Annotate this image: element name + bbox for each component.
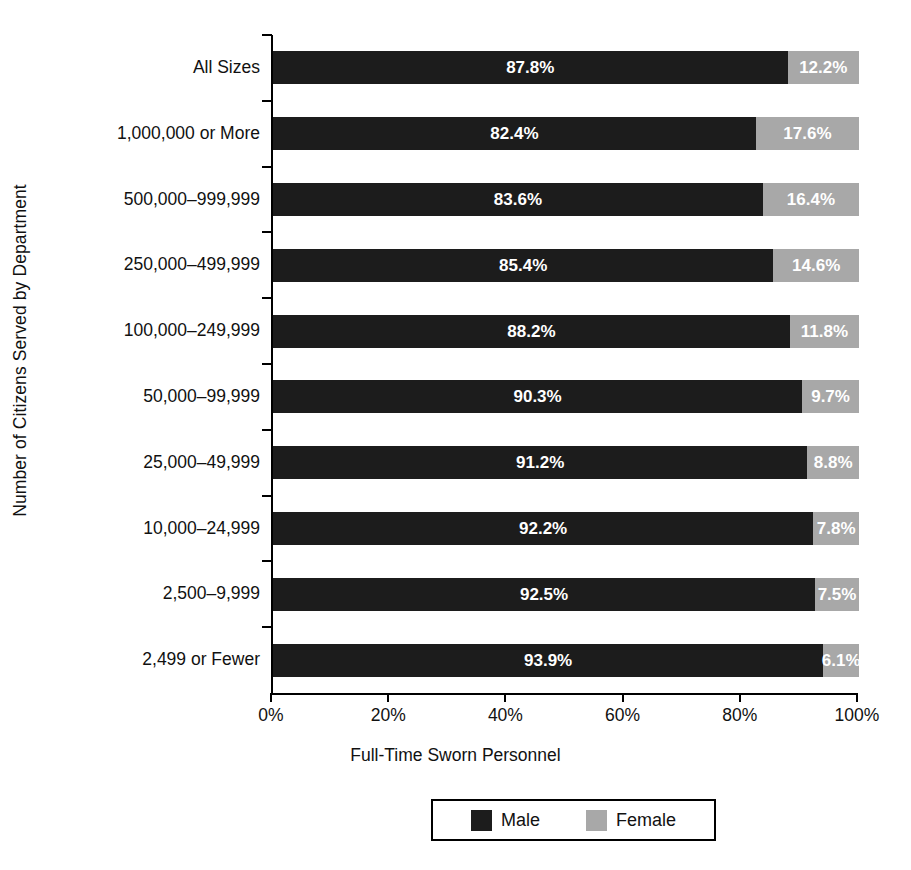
bar-segment-female: 17.6% [756, 117, 859, 150]
y-axis-title: Number of Citizens Served by Department [0, 0, 40, 700]
bar-row: 92.5%7.5% [273, 578, 859, 611]
bar-row: 83.6%16.4% [273, 183, 859, 216]
bar-segment-female: 8.8% [807, 446, 859, 479]
y-axis-tick [262, 34, 272, 36]
y-axis-tick [262, 363, 272, 365]
bar-row: 85.4%14.6% [273, 249, 859, 282]
legend-label-male: Male [501, 810, 540, 831]
stacked-bar-chart: Number of Citizens Served by Department … [0, 0, 911, 870]
bar-value-label-male: 82.4% [490, 125, 538, 142]
y-axis-tick [262, 560, 272, 562]
x-axis-tick-label: 0% [258, 705, 283, 726]
y-axis-category-label: 250,000–499,999 [124, 254, 260, 275]
x-axis-tick [270, 693, 272, 702]
y-axis-category-label: 25,000–49,999 [143, 452, 260, 473]
bar-value-label-male: 83.6% [494, 191, 542, 208]
bar-value-label-female: 8.8% [814, 454, 853, 471]
bar-row: 82.4%17.6% [273, 117, 859, 150]
x-axis-tick-label: 80% [722, 705, 757, 726]
legend-item-female: Female [586, 810, 676, 831]
y-axis-category-label: 1,000,000 or More [117, 123, 260, 144]
bar-row: 88.2%11.8% [273, 315, 859, 348]
bar-value-label-female: 7.5% [818, 586, 857, 603]
bar-segment-female: 14.6% [773, 249, 859, 282]
bar-value-label-female: 16.4% [787, 191, 835, 208]
y-axis-tick [262, 100, 272, 102]
y-axis-category-label: 50,000–99,999 [143, 386, 260, 407]
bar-segment-female: 7.5% [815, 578, 859, 611]
bar-value-label-male: 85.4% [499, 257, 547, 274]
y-axis-category-label: 2,499 or Fewer [142, 649, 260, 670]
chart-legend: Male Female [431, 799, 716, 841]
x-axis-tick-label: 20% [371, 705, 406, 726]
bar-segment-female: 16.4% [763, 183, 859, 216]
legend-item-male: Male [471, 810, 540, 831]
bar-segment-male: 92.5% [273, 578, 815, 611]
y-axis-category-label: 2,500–9,999 [163, 583, 260, 604]
bar-segment-female: 9.7% [802, 380, 859, 413]
bar-value-label-female: 12.2% [799, 59, 847, 76]
bar-segment-male: 87.8% [273, 51, 788, 84]
bar-segment-male: 83.6% [273, 183, 763, 216]
bar-segment-male: 92.2% [273, 512, 813, 545]
y-axis-category-label: 100,000–249,999 [124, 320, 260, 341]
bar-value-label-female: 11.8% [801, 323, 848, 340]
bar-segment-female: 6.1% [823, 644, 859, 677]
x-axis-tick-label: 60% [605, 705, 640, 726]
bar-segment-male: 93.9% [273, 644, 823, 677]
bar-value-label-male: 92.5% [520, 586, 568, 603]
bar-row: 87.8%12.2% [273, 51, 859, 84]
x-axis-tick [387, 693, 389, 702]
bar-segment-male: 82.4% [273, 117, 756, 150]
x-axis-tick [739, 693, 741, 702]
bar-value-label-female: 9.7% [811, 388, 850, 405]
x-axis-tick [622, 693, 624, 702]
bar-row: 90.3%9.7% [273, 380, 859, 413]
bar-value-label-female: 14.6% [792, 257, 840, 274]
bar-segment-female: 12.2% [788, 51, 859, 84]
bar-segment-female: 11.8% [790, 315, 859, 348]
x-axis-tick-label: 40% [488, 705, 523, 726]
y-axis-tick [262, 297, 272, 299]
x-axis-tick [856, 693, 858, 702]
bar-row: 92.2%7.8% [273, 512, 859, 545]
bar-row: 93.9%6.1% [273, 644, 859, 677]
bar-value-label-male: 91.2% [516, 454, 564, 471]
y-axis-tick [262, 166, 272, 168]
bar-value-label-male: 93.9% [524, 652, 572, 669]
legend-label-female: Female [616, 810, 676, 831]
y-axis-category-label: All Sizes [193, 57, 260, 78]
x-axis-tick [504, 693, 506, 702]
bar-value-label-male: 90.3% [513, 388, 561, 405]
x-axis-line [271, 693, 858, 695]
bar-segment-female: 7.8% [813, 512, 859, 545]
bar-segment-male: 85.4% [273, 249, 773, 282]
bar-segment-male: 91.2% [273, 446, 807, 479]
legend-swatch-female-icon [586, 810, 607, 831]
y-axis-title-text: Number of Citizens Served by Department [10, 184, 31, 517]
x-axis-tick-label: 100% [835, 705, 880, 726]
y-axis-tick [262, 495, 272, 497]
y-axis-tick [262, 626, 272, 628]
bar-value-label-male: 88.2% [507, 323, 555, 340]
x-axis-title: Full-Time Sworn Personnel [0, 745, 911, 766]
bar-value-label-male: 87.8% [506, 59, 554, 76]
bar-value-label-female: 6.1% [822, 652, 861, 669]
bar-segment-male: 88.2% [273, 315, 790, 348]
bar-value-label-female: 17.6% [783, 125, 831, 142]
y-axis-category-label: 500,000–999,999 [124, 189, 260, 210]
bar-row: 91.2%8.8% [273, 446, 859, 479]
bar-segment-male: 90.3% [273, 380, 802, 413]
y-axis-category-label: 10,000–24,999 [143, 518, 260, 539]
y-axis-tick [262, 231, 272, 233]
bar-value-label-female: 7.8% [817, 520, 856, 537]
y-axis-tick [262, 429, 272, 431]
legend-swatch-male-icon [471, 810, 492, 831]
bar-value-label-male: 92.2% [519, 520, 567, 537]
